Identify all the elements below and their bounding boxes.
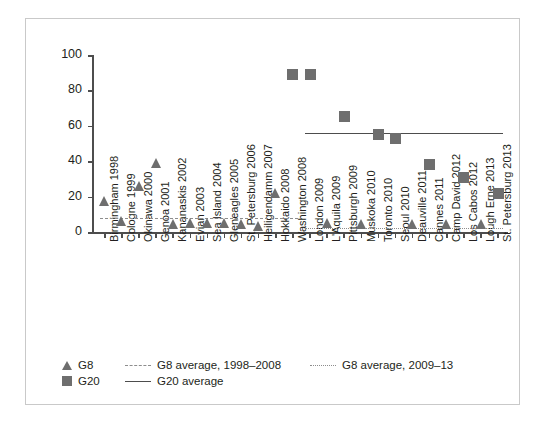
legend-item-solid-line: G20 average [125, 374, 224, 388]
y-tick [88, 55, 92, 57]
legend-swatch-dotted-line [310, 365, 336, 366]
legend-swatch-square [62, 376, 72, 386]
data-point-g8 [441, 219, 451, 229]
x-tick [121, 234, 123, 238]
y-tick [88, 232, 92, 234]
x-tick [138, 234, 140, 238]
y-tick-label: 80 [50, 83, 82, 95]
legend-swatch-triangle [62, 361, 72, 370]
reference-line-dashed [100, 218, 298, 219]
y-tick-label: 100 [50, 48, 82, 60]
y-tick [88, 197, 92, 199]
data-point-g8 [185, 218, 195, 228]
x-tick-label: Evian 2003 [195, 187, 206, 242]
data-point-g8 [202, 218, 212, 228]
x-tick [224, 234, 226, 238]
data-point-g8 [270, 188, 280, 198]
x-tick-label: Cannes 2011 [434, 177, 445, 242]
x-tick-label: Kananaskis 2002 [177, 158, 188, 242]
x-tick [155, 234, 157, 238]
data-point-g8 [168, 219, 178, 229]
data-point-g20 [373, 129, 384, 140]
x-tick-label: Birmingham 1998 [109, 156, 120, 242]
y-tick-label: 60 [50, 119, 82, 131]
legend-item-square: G20 [62, 374, 100, 388]
x-tick [429, 234, 431, 238]
y-tick [88, 161, 92, 163]
x-tick-label: Toronto 2010 [383, 178, 394, 242]
data-point-g8 [219, 218, 229, 228]
y-tick [88, 90, 92, 92]
data-point-g8 [134, 181, 144, 191]
x-tick-label: Hokkaido 2008 [280, 169, 291, 242]
data-point-g20 [287, 69, 298, 80]
legend-label: G8 [78, 359, 93, 371]
x-tick-label: Pittsburgh 2009 [348, 165, 359, 242]
data-point-g20 [305, 69, 316, 80]
x-tick [463, 234, 465, 238]
x-tick [190, 234, 192, 238]
legend-swatch-solid-line [125, 381, 151, 382]
reference-line-dotted [305, 228, 503, 229]
legend-swatch-dashed-line [125, 365, 151, 366]
x-tick-label: Okinawa 2000 [143, 172, 154, 242]
x-tick-label: Seoul 2010 [400, 186, 411, 242]
data-point-g8 [99, 196, 109, 206]
data-point-g8 [151, 158, 161, 168]
y-axis-line [92, 55, 94, 232]
y-tick-label: 0 [50, 225, 82, 237]
x-tick [275, 234, 277, 238]
legend-label: G20 average [157, 375, 224, 387]
data-point-g20 [339, 111, 350, 122]
data-point-g8 [476, 219, 486, 229]
x-tick [292, 234, 294, 238]
data-point-g8 [253, 221, 263, 231]
x-tick-label: L'Aquila 2009 [331, 176, 342, 242]
x-tick [309, 234, 311, 238]
x-tick-label: Deauville 2011 [417, 170, 428, 242]
x-tick-label: Gleneagles 2005 [229, 159, 240, 242]
x-tick [326, 234, 328, 238]
x-tick [361, 234, 363, 238]
x-tick [395, 234, 397, 238]
data-point-g8 [407, 219, 417, 229]
x-tick [446, 234, 448, 238]
data-point-g8 [322, 218, 332, 228]
x-tick [104, 234, 106, 238]
x-tick [258, 234, 260, 238]
x-tick-label: Muskoka 2010 [366, 170, 377, 242]
figure-container: 020406080100Birmingham 1998Cologne 1999O… [0, 0, 547, 421]
data-point-g20 [458, 172, 469, 183]
x-tick-label: Los Cabos 2012 [468, 162, 479, 242]
reference-line-solid [305, 133, 503, 134]
x-tick [207, 234, 209, 238]
x-tick-label: St. Petersburg 2013 [502, 144, 513, 242]
legend-label: G20 [78, 375, 100, 387]
legend-item-dashed-line: G8 average, 1998–2008 [125, 358, 281, 372]
data-point-g20 [390, 133, 401, 144]
x-tick-label: Sea Island 2004 [212, 162, 223, 242]
x-tick [497, 234, 499, 238]
x-tick [480, 234, 482, 238]
x-tick [412, 234, 414, 238]
data-point-g8 [356, 219, 366, 229]
data-point-g8 [236, 219, 246, 229]
legend-label: G8 average, 2009–13 [342, 359, 453, 371]
x-tick [378, 234, 380, 238]
y-tick-label: 20 [50, 190, 82, 202]
y-tick [88, 126, 92, 128]
data-point-g8 [116, 216, 126, 226]
legend-label: G8 average, 1998–2008 [157, 359, 281, 371]
x-tick [241, 234, 243, 238]
x-tick-label: Genoa 2001 [160, 181, 171, 242]
legend-item-dotted-line: G8 average, 2009–13 [310, 358, 453, 372]
legend-item-triangle: G8 [62, 358, 93, 372]
y-tick-label: 40 [50, 154, 82, 166]
x-tick [343, 234, 345, 238]
x-tick-label: London 2009 [314, 178, 325, 242]
data-point-g20 [424, 159, 435, 170]
x-tick [172, 234, 174, 238]
data-point-g20 [493, 188, 504, 199]
